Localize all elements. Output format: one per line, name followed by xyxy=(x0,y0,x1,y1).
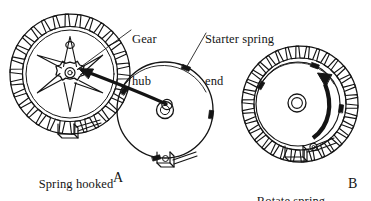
callout-gear-hub-line1: Gear xyxy=(132,32,157,46)
gear-hub xyxy=(56,61,84,80)
gear-web-hole xyxy=(66,42,74,49)
panel-label-b: B xyxy=(348,176,357,192)
panel-label-a: A xyxy=(113,170,123,186)
callout-starter-spring-end-line2: end xyxy=(205,74,274,88)
callout-starter-spring-end-line1: Starter spring xyxy=(205,32,274,46)
drum-bottom-tab xyxy=(157,152,197,167)
caption-panel-b: Rotate spring 4 full turns xyxy=(243,166,339,201)
rotation-arrow xyxy=(313,73,332,138)
leader-starter-spring-end xyxy=(186,33,206,68)
callout-gear-hub-line2: hub xyxy=(132,74,157,88)
callout-gear-hub: Gear hub xyxy=(132,4,157,116)
caption-panel-b-line1: Rotate spring xyxy=(243,194,339,201)
right-drum-hub xyxy=(288,94,306,112)
left-gear xyxy=(10,14,130,138)
callout-starter-spring-end: Starter spring end xyxy=(205,4,274,116)
figure-canvas: Gear hub Starter spring end Spring hooke… xyxy=(0,0,371,201)
